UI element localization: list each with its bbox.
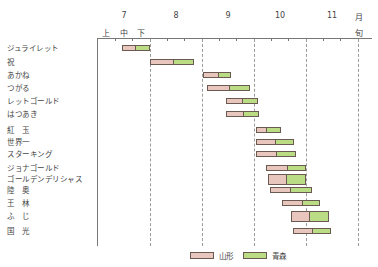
bar-sekaiichi xyxy=(256,139,294,145)
bar-jonagold xyxy=(266,165,306,171)
subperiod-label-mid: 中 xyxy=(120,27,128,38)
bar-segment-yamagata xyxy=(151,60,174,64)
bar-redgold xyxy=(226,98,258,104)
tick xyxy=(167,38,168,41)
bar-segment-yamagata xyxy=(294,229,313,233)
bar-segment-aomori xyxy=(136,46,149,50)
month-label-9: 9 xyxy=(225,11,230,20)
row-label: レットゴールド xyxy=(7,97,60,106)
gridline-oct xyxy=(254,39,255,246)
bar-tsugaru xyxy=(207,85,250,91)
row-label: あかね xyxy=(7,71,30,80)
y-axis-line xyxy=(97,38,98,246)
bar-segment-aomori xyxy=(303,201,319,205)
bar-segment-aomori xyxy=(267,128,280,132)
bar-hatsuaki xyxy=(226,111,259,117)
bar-segment-aomori xyxy=(219,73,230,77)
row-label: 国 光 xyxy=(7,227,30,236)
legend-item-yamagata: 山形 xyxy=(190,250,233,261)
row-label: 陸 奥 xyxy=(7,186,30,195)
tick xyxy=(115,38,116,41)
row-label: 世界一 xyxy=(7,138,30,147)
x-axis-line xyxy=(97,38,372,39)
row-label: 紅 玉 xyxy=(7,126,30,135)
bar-segment-yamagata xyxy=(269,175,287,184)
bar-ourin xyxy=(282,200,320,206)
bar-iwai xyxy=(150,59,194,65)
bar-segment-yamagata xyxy=(283,201,303,205)
bar-segment-yamagata xyxy=(123,46,136,50)
tick xyxy=(219,38,220,41)
bar-segment-aomori xyxy=(276,140,293,144)
bar-kougyoku xyxy=(256,127,281,133)
legend-label-yamagata: 山形 xyxy=(219,250,233,261)
harvest-calendar-chart: 7 8 9 10 11 月 旬 上 中 下 ジュライレット 祝 あかね つがる … xyxy=(0,0,378,267)
legend-item-aomori: 青森 xyxy=(243,250,286,261)
row-label: つがる xyxy=(7,84,30,93)
tick xyxy=(184,38,185,41)
bar-segment-aomori xyxy=(287,175,305,184)
bar-segment-yamagata xyxy=(257,128,267,132)
row-label: ふ じ xyxy=(7,212,30,221)
bar-golden-delicious xyxy=(268,174,306,185)
legend-label-aomori: 青森 xyxy=(272,250,286,261)
tick xyxy=(288,38,289,41)
row-label: スターキング xyxy=(7,150,52,159)
bar-starking xyxy=(256,151,296,157)
month-label-8: 8 xyxy=(173,11,178,20)
month-label-10: 10 xyxy=(275,11,285,20)
row-label: はつあき xyxy=(7,110,37,119)
bar-segment-yamagata xyxy=(257,140,276,144)
bar-akane xyxy=(203,72,231,78)
row-label: 祝 xyxy=(7,58,15,67)
gridline-aug xyxy=(150,39,151,246)
row-label: ゴールデンデリシャス xyxy=(7,175,82,184)
tick xyxy=(236,38,237,41)
month-label-11: 11 xyxy=(327,11,337,20)
bar-segment-aomori xyxy=(313,229,330,233)
bar-segment-yamagata xyxy=(208,86,230,90)
bar-mutsu xyxy=(270,187,312,193)
bar-segment-yamagata xyxy=(227,112,244,116)
row-label: ジョナゴールド xyxy=(7,164,60,173)
unit-label-jun: 旬 xyxy=(355,27,363,38)
bar-segment-yamagata xyxy=(292,212,310,221)
bar-segment-aomori xyxy=(310,212,328,221)
bar-segment-yamagata xyxy=(267,166,288,170)
subperiod-label-early: 上 xyxy=(102,27,110,38)
tick xyxy=(271,38,272,41)
bar-segment-aomori xyxy=(243,99,257,103)
bar-segment-yamagata xyxy=(271,188,291,192)
bar-julyred xyxy=(122,45,150,51)
bar-segment-aomori xyxy=(230,86,249,90)
tick xyxy=(323,38,324,41)
unit-label-month: 月 xyxy=(355,11,363,22)
bar-segment-aomori xyxy=(277,152,295,156)
row-label: 王 林 xyxy=(7,199,30,208)
row-label: ジュライレット xyxy=(7,44,59,53)
legend-swatch-yamagata xyxy=(190,252,214,259)
gridline-dec xyxy=(358,39,359,246)
month-label-7: 7 xyxy=(121,11,126,20)
subperiod-label-late: 下 xyxy=(137,27,145,38)
bar-segment-aomori xyxy=(244,112,258,116)
tick xyxy=(340,38,341,41)
tick xyxy=(132,38,133,41)
bar-segment-yamagata xyxy=(204,73,219,77)
legend-swatch-aomori xyxy=(243,252,267,259)
gridline-sep xyxy=(202,39,203,246)
bar-segment-yamagata xyxy=(227,99,243,103)
bar-segment-aomori xyxy=(288,166,305,170)
bar-kokkou xyxy=(293,228,331,234)
bar-segment-aomori xyxy=(291,188,311,192)
bar-segment-yamagata xyxy=(257,152,277,156)
bar-fuji xyxy=(291,211,329,222)
bar-segment-aomori xyxy=(174,60,193,64)
